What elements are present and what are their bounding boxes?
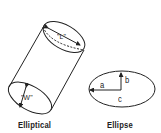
shapes-diagram bbox=[0, 0, 161, 133]
axis-a-label: a bbox=[100, 80, 104, 90]
axis-b-label: b bbox=[125, 75, 129, 85]
cylinder-left-side bbox=[9, 24, 45, 87]
center-label: c bbox=[118, 94, 122, 104]
ellipse-caption: Ellipse bbox=[107, 120, 133, 130]
length-label: "L" bbox=[57, 32, 66, 41]
cylinder-right-side bbox=[51, 50, 84, 110]
width-label: "W" bbox=[21, 93, 33, 102]
elliptical-cylinder bbox=[3, 15, 90, 120]
elliptical-caption: Elliptical bbox=[18, 120, 51, 130]
